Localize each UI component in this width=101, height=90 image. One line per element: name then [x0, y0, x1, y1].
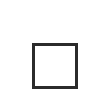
maximize-button[interactable]	[32, 43, 78, 89]
